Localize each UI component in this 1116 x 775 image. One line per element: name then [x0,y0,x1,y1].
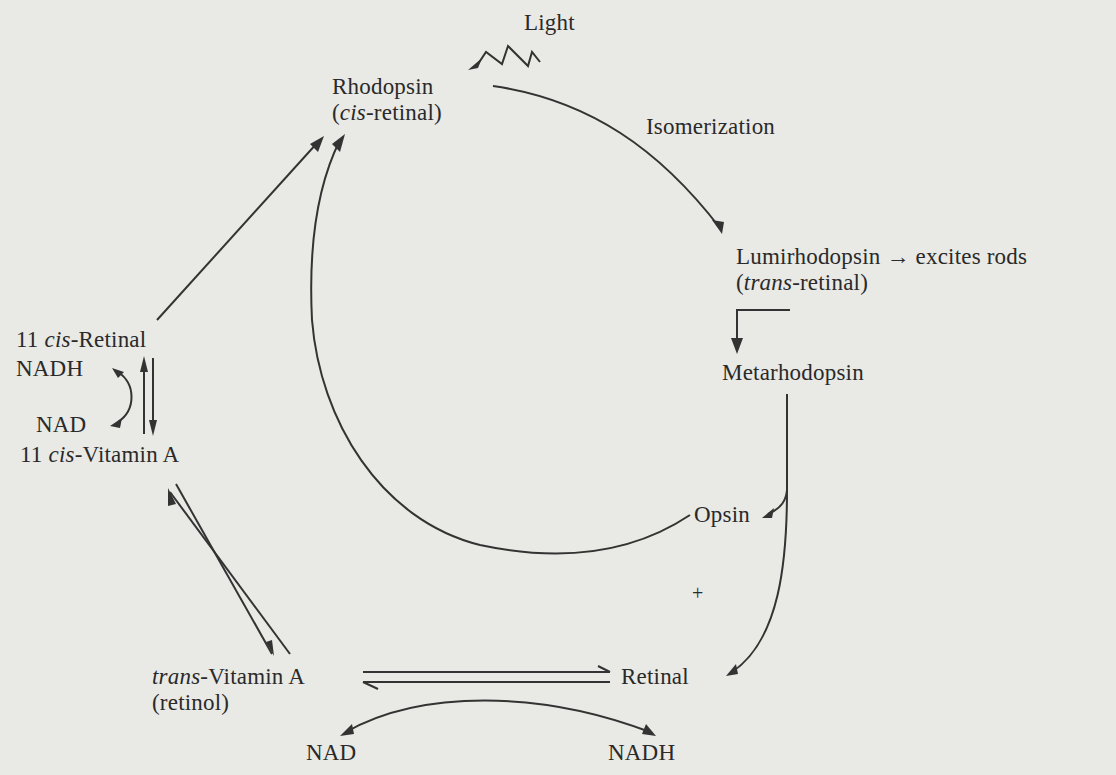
pathway-arrows [0,0,1116,775]
vitamin-a-retinal-reversible [363,666,610,689]
cis-trans-vitamin-a-reversible [168,484,290,656]
lumirhodopsin-label: Lumirhodopsin → excites rods [736,244,1027,270]
rhodopsin-node: Rhodopsin (cis-retinal) [332,74,442,126]
retinal-text: -retinal) [366,100,442,125]
isomerization-label: Isomerization [646,114,775,140]
retinal-text: -Retinal [71,327,147,352]
opsin-to-rhodopsin-arrow [311,134,690,554]
trans-vitamin-a-label: trans-Vitamin A [152,664,305,690]
lumirhodopsin-node: Lumirhodopsin → excites rods (trans-reti… [736,244,1027,296]
opsin-label: Opsin [694,502,750,528]
rhodopsin-label: Rhodopsin [332,74,442,100]
cis-retinal-label: 11 cis-Retinal [16,327,146,353]
prefix: 11 [16,327,45,352]
cis-retinal-vitamin-a-reversible [140,356,157,436]
vitamin-a-text: -Vitamin A [200,664,305,689]
cis-italic: cis [340,100,366,125]
meta-to-opsin-retinal-arrow [726,394,787,676]
vitamin-a-text: -Vitamin A [75,442,180,467]
retinal-text: -retinal) [792,270,868,295]
lumirhodopsin-sublabel: (trans-retinal) [736,270,1027,296]
prefix: 11 [20,442,49,467]
paren: ( [332,100,340,125]
nadh-nad-left-cofactor-arrow [110,368,132,428]
paren: ( [736,270,744,295]
cis-italic: cis [45,327,71,352]
cis-retinal-to-rhodopsin-arrow [157,136,324,320]
nad-bottom-label: NAD [306,740,356,766]
retinol-label: (retinol) [152,690,305,716]
lumi-to-meta-arrow [731,310,790,354]
nad-nadh-bottom-cofactor-arrow [340,701,656,737]
light-zigzag-arrow [468,46,540,70]
nadh-bottom-label: NADH [608,740,675,766]
light-label: Light [524,10,575,36]
cis-vitamin-a-label: 11 cis-Vitamin A [20,442,179,468]
isomerization-arrow [493,86,724,234]
cis-italic: cis [49,442,75,467]
trans-vitamin-a-node: trans-Vitamin A (retinol) [152,664,305,716]
rhodopsin-sublabel: (cis-retinal) [332,100,442,126]
nadh-left-label: NADH [16,356,83,382]
nad-left-label: NAD [36,412,86,438]
retinal-label: Retinal [621,664,689,690]
trans-italic: trans [744,270,792,295]
plus-sign: + [692,580,703,606]
trans-italic: trans [152,664,200,689]
metarhodopsin-label: Metarhodopsin [722,360,864,386]
